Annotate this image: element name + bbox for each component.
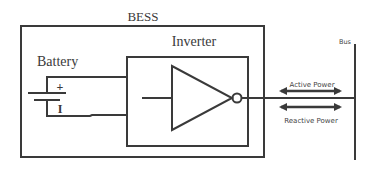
bess-label: BESS [127,9,158,24]
battery-minus-sign: I [58,102,63,116]
inverter-label: Inverter [172,34,217,49]
battery-plus-sign: + [57,80,64,94]
battery-symbol-icon [28,77,127,116]
inverter-box [127,57,248,146]
inverter-gate-icon [142,66,242,130]
bess-diagram: BESS Battery Inverter + I Bus Active Pow… [0,0,374,170]
reactive-power-label: Reactive Power [284,117,338,125]
battery-label: Battery [37,54,78,69]
bus-label: Bus [339,38,352,46]
active-power-label: Active Power [289,81,334,89]
